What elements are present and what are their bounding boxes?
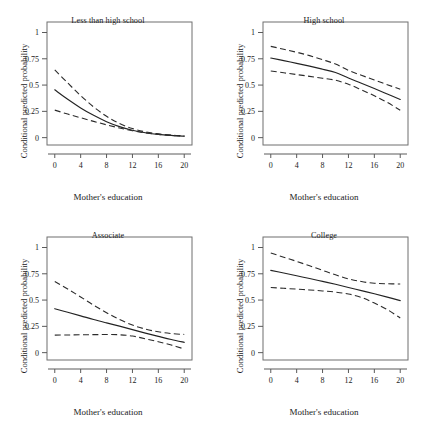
y-axis-label: Conditional predicted probability: [19, 246, 29, 386]
x-tick-label: 16: [370, 161, 378, 170]
panel-title: High school: [216, 16, 432, 25]
confidence-band-line: [271, 71, 400, 110]
x-tick-label: 12: [128, 376, 136, 385]
confidence-band-line: [55, 70, 184, 136]
y-axis-label: Conditional predicted probability: [235, 31, 245, 171]
x-axis-label: Mother's education: [216, 407, 432, 417]
x-tick-label: 20: [396, 161, 404, 170]
x-tick-label: 4: [295, 161, 299, 170]
fit-line: [55, 90, 184, 136]
figure-panel-grid: Less than high school 00.250.50.75104812…: [0, 0, 432, 431]
x-tick-label: 4: [79, 161, 83, 170]
x-tick-label: 0: [53, 161, 57, 170]
x-tick-label: 20: [396, 376, 404, 385]
x-tick-label: 12: [344, 376, 352, 385]
confidence-band-line: [271, 288, 400, 318]
y-tick-label: 0.5: [245, 81, 255, 90]
panel-title: Less than high school: [0, 16, 216, 25]
fit-line: [55, 309, 184, 343]
x-tick-label: 8: [321, 161, 325, 170]
x-tick-label: 16: [154, 376, 162, 385]
plot-frame: [47, 237, 192, 360]
y-tick-label: 0.5: [29, 81, 39, 90]
x-tick-label: 12: [128, 161, 136, 170]
y-axis-label: Conditional predicted probability: [235, 246, 245, 386]
x-tick-label: 8: [105, 376, 109, 385]
y-tick-label: 0: [35, 349, 39, 358]
x-tick-label: 0: [269, 161, 273, 170]
x-tick-label: 0: [53, 376, 57, 385]
x-tick-label: 4: [295, 376, 299, 385]
y-tick-label: 1: [35, 243, 39, 252]
panel-title: College: [216, 231, 432, 240]
plot-canvas-1: 00.250.50.751048121620: [216, 0, 432, 215]
y-tick-label: 0.5: [29, 296, 39, 305]
confidence-band-line: [55, 110, 184, 136]
x-tick-label: 20: [180, 161, 188, 170]
confidence-band-line: [271, 46, 400, 89]
panel-college: College 00.250.50.751048121620 Condition…: [216, 215, 432, 430]
x-axis-label: Mother's education: [0, 407, 216, 417]
plot-frame: [263, 22, 408, 145]
confidence-band-line: [271, 253, 400, 284]
y-axis-label: Conditional predicted probability: [19, 31, 29, 171]
plot-canvas-3: 00.250.50.751048121620: [216, 215, 432, 430]
x-axis-label: Mother's education: [0, 192, 216, 202]
confidence-band-line: [55, 335, 184, 349]
y-tick-label: 0: [251, 349, 255, 358]
panel-associate: Associate 00.250.50.751048121620 Conditi…: [0, 215, 216, 430]
x-tick-label: 20: [180, 376, 188, 385]
x-tick-label: 0: [269, 376, 273, 385]
x-tick-label: 16: [370, 376, 378, 385]
x-tick-label: 16: [154, 161, 162, 170]
panel-less-than-high-school: Less than high school 00.250.50.75104812…: [0, 0, 216, 215]
x-tick-label: 4: [79, 376, 83, 385]
y-tick-label: 0: [251, 134, 255, 143]
y-tick-label: 0: [35, 134, 39, 143]
y-tick-label: 0.5: [245, 296, 255, 305]
y-tick-label: 1: [35, 28, 39, 37]
plot-canvas-0: 00.250.50.751048121620: [0, 0, 216, 215]
plot-frame: [263, 237, 408, 360]
panel-title: Associate: [0, 231, 216, 240]
y-tick-label: 1: [251, 243, 255, 252]
plot-canvas-2: 00.250.50.751048121620: [0, 215, 216, 430]
x-axis-label: Mother's education: [216, 192, 432, 202]
x-tick-label: 8: [321, 376, 325, 385]
x-tick-label: 8: [105, 161, 109, 170]
chart-grid: Less than high school 00.250.50.75104812…: [0, 0, 432, 431]
y-tick-label: 1: [251, 28, 255, 37]
x-tick-label: 12: [344, 161, 352, 170]
panel-high-school: High school 00.250.50.751048121620 Condi…: [216, 0, 432, 215]
